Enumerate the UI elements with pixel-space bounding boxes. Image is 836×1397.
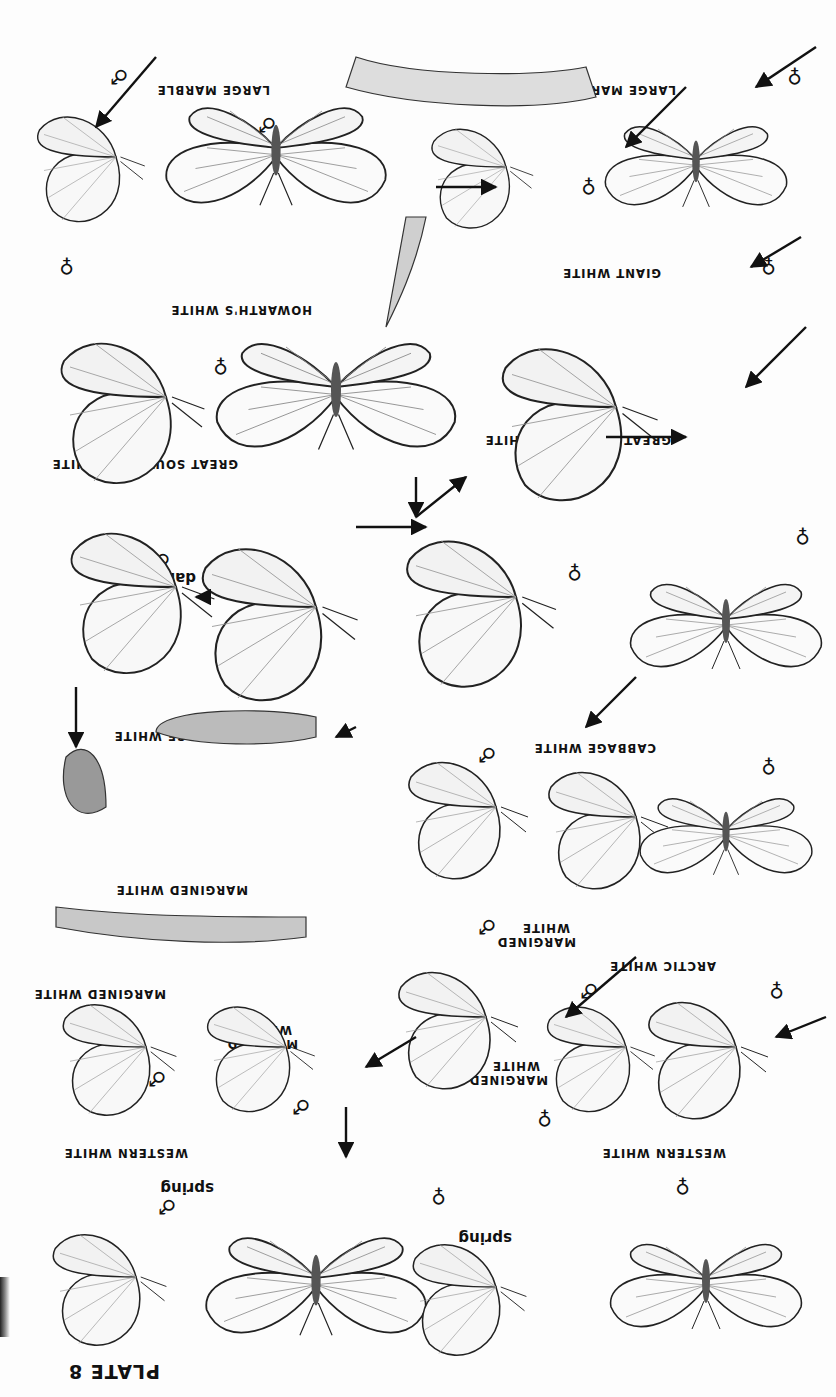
- field-guide-plate: PLATE 8 LARGE MARBLE LARGE MARBLE HOWART…: [0, 0, 836, 1397]
- page-edge-shadow: [0, 1277, 10, 1337]
- butterfly-illustrations: [0, 0, 836, 1397]
